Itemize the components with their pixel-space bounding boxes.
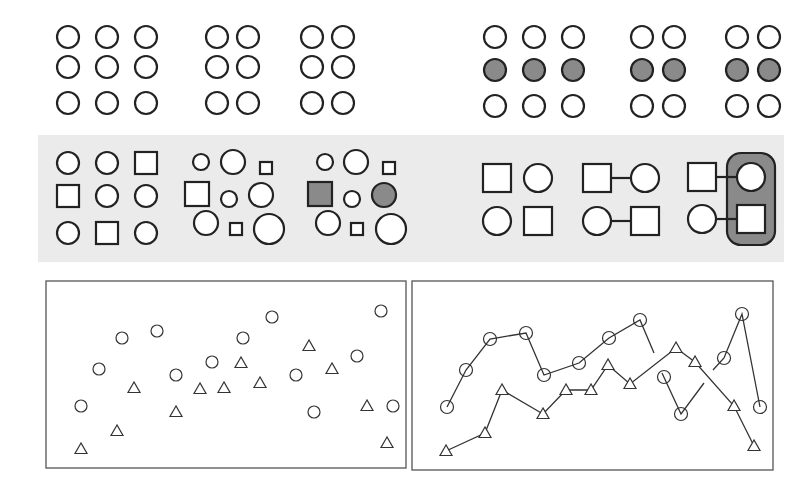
- scatter-circle-marker: [351, 350, 363, 362]
- circle-shape: [96, 152, 118, 174]
- square-shape: [260, 162, 272, 174]
- similarity-circle: [562, 95, 584, 117]
- similarity-circle: [523, 26, 545, 48]
- square-shape: [185, 182, 209, 206]
- circle-shape: [376, 214, 406, 244]
- circle-shape: [344, 150, 368, 174]
- proximity-circle: [332, 92, 354, 114]
- scatter-circle-marker: [308, 406, 320, 418]
- proximity-circle: [237, 26, 259, 48]
- proximity-circle: [237, 92, 259, 114]
- similarity-filled-circle: [726, 59, 748, 81]
- circle-shape: [737, 163, 765, 191]
- square-shape: [583, 164, 611, 192]
- circle-shape: [135, 185, 157, 207]
- similarity-circle: [631, 95, 653, 117]
- scatter-circle-marker: [290, 369, 302, 381]
- circle-shape: [316, 211, 340, 235]
- similarity-circle: [758, 95, 780, 117]
- square-shape: [688, 163, 716, 191]
- similarity-circle: [523, 95, 545, 117]
- proximity-circle: [96, 26, 118, 48]
- similarity-filled-circle: [663, 59, 685, 81]
- similarity-filled-circle: [758, 59, 780, 81]
- row-proximity-similarity: [57, 26, 780, 117]
- proximity-circle: [135, 56, 157, 78]
- proximity-circle: [332, 26, 354, 48]
- proximity-circle: [301, 26, 323, 48]
- proximity-circle: [301, 92, 323, 114]
- proximity-circle: [237, 56, 259, 78]
- proximity-circle: [301, 56, 323, 78]
- similarity-circle: [663, 26, 685, 48]
- circle-shape: [249, 183, 273, 207]
- scatter-circle-marker: [237, 332, 249, 344]
- square-shape: [351, 223, 363, 235]
- circle-shape: [254, 214, 284, 244]
- proximity-circle: [57, 26, 79, 48]
- circle-shape: [57, 222, 79, 244]
- similarity-circle: [631, 26, 653, 48]
- similarity-circle: [484, 95, 506, 117]
- similarity-filled-circle: [484, 59, 506, 81]
- proximity-circle: [96, 92, 118, 114]
- circle-shape: [583, 207, 611, 235]
- scatter-circle-marker: [116, 332, 128, 344]
- scatter-circle-marker: [375, 305, 387, 317]
- proximity-circle: [206, 92, 228, 114]
- circle-shape: [57, 152, 79, 174]
- similarity-filled-circle: [562, 59, 584, 81]
- proximity-circle: [206, 56, 228, 78]
- proximity-circle: [135, 26, 157, 48]
- square-shape: [383, 162, 395, 174]
- circle-shape: [524, 164, 552, 192]
- proximity-circle: [57, 92, 79, 114]
- square-shape: [524, 207, 552, 235]
- square-shape: [96, 222, 118, 244]
- scatter-circle-marker: [266, 311, 278, 323]
- similarity-circle: [758, 26, 780, 48]
- square-shape: [57, 185, 79, 207]
- row-shape-size-connectedness: [38, 135, 784, 262]
- square-shape: [737, 205, 765, 233]
- scatter-circle-marker: [151, 325, 163, 337]
- proximity-circle: [206, 26, 228, 48]
- proximity-circle: [57, 56, 79, 78]
- similarity-filled-circle: [631, 59, 653, 81]
- circle-shape: [193, 154, 209, 170]
- similarity-circle: [562, 26, 584, 48]
- circle-shape: [135, 222, 157, 244]
- square-shape: [230, 223, 242, 235]
- scatter-circle-marker: [387, 400, 399, 412]
- circle-shape: [688, 205, 716, 233]
- scatter-circle-marker: [206, 356, 218, 368]
- circle-shape: [372, 183, 396, 207]
- proximity-circle: [135, 92, 157, 114]
- similarity-filled-circle: [523, 59, 545, 81]
- gestalt-figure: [0, 0, 812, 490]
- row-scatter-and-line-panels: [46, 281, 773, 470]
- square-shape: [483, 164, 511, 192]
- square-shape: [631, 207, 659, 235]
- circle-shape: [483, 207, 511, 235]
- proximity-circle: [96, 56, 118, 78]
- square-shape: [308, 182, 332, 206]
- circle-shape: [344, 191, 360, 207]
- scatter-circle-marker: [170, 369, 182, 381]
- scatter-circle-marker: [75, 400, 87, 412]
- similarity-circle: [484, 26, 506, 48]
- circle-shape: [317, 154, 333, 170]
- circle-shape: [96, 185, 118, 207]
- similarity-circle: [663, 95, 685, 117]
- circle-shape: [221, 191, 237, 207]
- circle-shape: [194, 211, 218, 235]
- scatter-circle-marker: [93, 363, 105, 375]
- proximity-circle: [332, 56, 354, 78]
- similarity-circle: [726, 26, 748, 48]
- circle-shape: [221, 150, 245, 174]
- circle-shape: [631, 164, 659, 192]
- similarity-circle: [726, 95, 748, 117]
- square-shape: [135, 152, 157, 174]
